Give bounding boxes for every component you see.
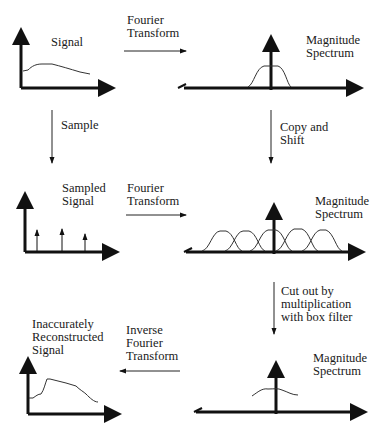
reconstructed-signal-plot	[28, 362, 116, 414]
sampled-signal-label: Sampled Signal	[62, 182, 106, 208]
inverse-fourier-transform-label: Inverse Fourier Transform	[126, 324, 178, 363]
magnitude-spectrum-label-2: Magnitude Spectrum	[315, 195, 369, 221]
fourier-transform-label-2: Fourier Transform	[127, 182, 179, 208]
magnitude-spectrum-label-1: Magnitude Spectrum	[306, 34, 360, 60]
cut-out-label: Cut out by multiplication with box filte…	[281, 285, 353, 324]
signal-label: Signal	[51, 36, 83, 49]
fourier-transform-label-1: Fourier Transform	[127, 14, 179, 40]
magnitude-spectrum-label-3: Magnitude Spectrum	[313, 352, 367, 378]
reconstructed-signal-label: Inaccurately Reconstructed Signal	[32, 318, 104, 357]
copy-shift-label: Copy and Shift	[280, 121, 328, 147]
sample-label: Sample	[61, 119, 99, 132]
